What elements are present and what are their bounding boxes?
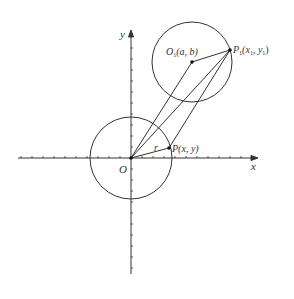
x-axis-label: x <box>250 160 256 172</box>
point-p <box>167 146 171 150</box>
point-p1-label: P1(x1, y1) <box>232 44 269 56</box>
point-p-label: P(x, y) <box>171 143 199 155</box>
y-axis-label: y <box>119 28 125 40</box>
radius-label: r <box>154 142 158 153</box>
point-o1 <box>190 60 194 64</box>
y-axis-arrow <box>129 30 134 37</box>
point-p1 <box>228 48 232 52</box>
origin-label: O <box>119 163 127 175</box>
point-o <box>129 156 133 160</box>
center-o1-label: O1(a, b) <box>166 46 199 58</box>
vector-diagram: x y O r P(x, y) O1(a, b) P1(x1, y1) <box>0 0 294 299</box>
segment-o-p1 <box>131 50 230 158</box>
